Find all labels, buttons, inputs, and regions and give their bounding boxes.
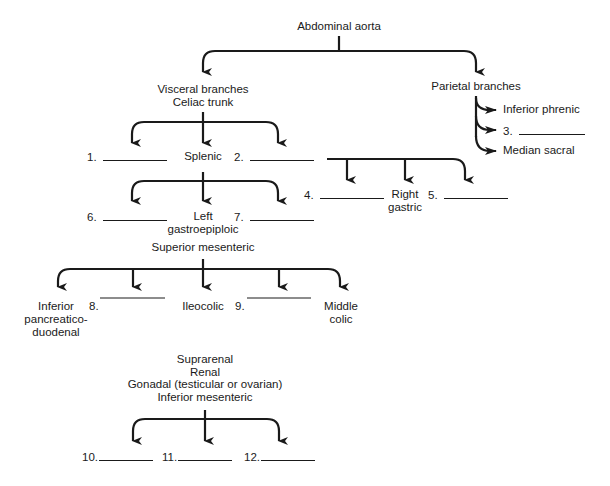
- blank-2-number: 2.: [234, 151, 244, 163]
- right-gastric-line2: gastric: [388, 201, 422, 215]
- middle-colic-line2: colic: [329, 313, 352, 327]
- blank-12[interactable]: 12.: [244, 450, 315, 465]
- blank-8-number[interactable]: 8.: [89, 300, 99, 314]
- blank-2-line[interactable]: [250, 150, 314, 161]
- blank-4[interactable]: 4.: [304, 188, 384, 203]
- blank-12-line[interactable]: [261, 450, 315, 461]
- blank-4-number: 4.: [304, 189, 314, 201]
- celiac-trunk-label: Celiac trunk: [173, 96, 234, 110]
- inferior-pancreaticoduodenal-line2: pancreatico-: [24, 313, 87, 327]
- blank-1-line[interactable]: [103, 150, 167, 161]
- left-gastroepiploic-line2: gastroepiploic: [168, 223, 239, 237]
- splenic-label: Splenic: [184, 150, 222, 164]
- ileocolic-label: Ileocolic: [182, 300, 224, 314]
- blank-1-number: 1.: [87, 151, 97, 163]
- blank-3-number: 3.: [503, 125, 513, 137]
- blank-6-number: 6.: [87, 211, 97, 223]
- inferior-pancreaticoduodenal-line1: Inferior: [38, 300, 74, 314]
- blank-11-line[interactable]: [178, 450, 232, 461]
- inferior-phrenic-label: Inferior phrenic: [503, 103, 580, 117]
- parietal-branches-label: Parietal branches: [431, 80, 521, 94]
- blank-11[interactable]: 11.: [162, 450, 232, 465]
- inferior-mesenteric-label: Inferior mesenteric: [157, 391, 252, 405]
- blank-3[interactable]: 3.: [503, 124, 585, 139]
- blank-6[interactable]: 6.: [87, 210, 167, 225]
- median-sacral-label: Median sacral: [503, 144, 575, 158]
- blank-2[interactable]: 2.: [234, 150, 314, 165]
- gonadal-label: Gonadal (testicular or ovarian): [128, 378, 283, 392]
- superior-mesenteric-label: Superior mesenteric: [152, 241, 255, 255]
- inferior-pancreaticoduodenal-line3: duodenal: [32, 326, 79, 340]
- blank-6-line[interactable]: [103, 210, 167, 221]
- suprarenal-label: Suprarenal: [177, 353, 233, 367]
- visceral-branches-label: Visceral branches: [157, 83, 248, 97]
- blank-5[interactable]: 5.: [428, 188, 508, 203]
- blank-10-line[interactable]: [99, 450, 153, 461]
- blank-5-line[interactable]: [444, 188, 508, 199]
- blank-11-number: 11.: [162, 451, 177, 463]
- blank-10[interactable]: 10.: [82, 450, 153, 465]
- blank-3-line[interactable]: [519, 124, 585, 135]
- blank-7-line[interactable]: [250, 210, 314, 221]
- blank-7[interactable]: 7.: [234, 210, 314, 225]
- left-gastroepiploic-line1: Left: [193, 210, 212, 224]
- blank-10-number: 10.: [82, 451, 98, 463]
- middle-colic-line1: Middle: [324, 300, 358, 314]
- diagram-connectors: [0, 0, 610, 486]
- blank-4-line[interactable]: [320, 188, 384, 199]
- right-gastric-line1: Right: [392, 188, 419, 202]
- blank-1[interactable]: 1.: [87, 150, 167, 165]
- blank-9-number[interactable]: 9.: [235, 300, 245, 314]
- blank-5-number: 5.: [428, 189, 438, 201]
- blank-12-number: 12.: [244, 451, 260, 463]
- blank-7-number: 7.: [234, 211, 244, 223]
- abdominal-aorta-label: Abdominal aorta: [297, 20, 381, 34]
